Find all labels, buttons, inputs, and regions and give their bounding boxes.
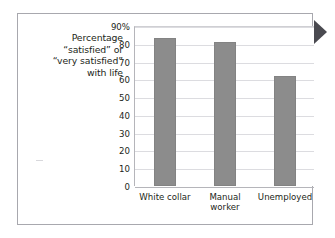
x-axis-label-manual-worker: Manualworker: [209, 192, 240, 213]
y-axis-title-line-4: with life: [26, 67, 123, 79]
y-axis-tick-label-0: 0: [125, 182, 130, 192]
y-axis-title: Percentage“satisfied” or“very satisfied”…: [26, 32, 123, 78]
plot-area: 90%80706050403020100White collarManualwo…: [134, 26, 314, 186]
y-axis-tick-label-30: 30: [119, 129, 130, 139]
scan-artifact: [36, 160, 43, 161]
x-axis-label-line-1: Unemployed: [258, 192, 312, 202]
y-axis-tick-label-90: 90%: [111, 22, 130, 32]
y-axis-tick-label-70: 70: [119, 58, 130, 68]
bar-white-collar[interactable]: [154, 38, 176, 186]
y-axis-tick-label-10: 10: [119, 164, 130, 174]
y-axis-title-line-2: “satisfied” or: [26, 44, 123, 56]
gridline-0: [135, 187, 314, 188]
y-axis-tick-label-20: 20: [119, 146, 130, 156]
y-axis-tick-label-50: 50: [119, 93, 130, 103]
x-axis-label-unemployed: Unemployed: [258, 192, 312, 202]
x-axis-label-line-1: Manual: [209, 192, 240, 202]
y-axis-title-line-3: “very satisfied”: [26, 55, 123, 67]
y-axis-tick-label-60: 60: [119, 75, 130, 85]
bar-manual-worker[interactable]: [214, 42, 236, 186]
y-axis-title-line-1: Percentage: [26, 32, 123, 44]
x-axis-label-line-1: White collar: [139, 192, 190, 202]
x-axis-label-white-collar: White collar: [139, 192, 190, 202]
gridline-90: [135, 27, 314, 28]
bar-unemployed[interactable]: [274, 76, 296, 186]
right-triangle-pointer-icon: [314, 20, 327, 44]
y-axis-tick-label-80: 80: [119, 40, 130, 50]
y-axis-tick-label-40: 40: [119, 111, 130, 121]
chart-figure-frame: Percentage“satisfied” or“very satisfied”…: [17, 13, 313, 225]
x-axis-label-line-2: worker: [209, 202, 240, 212]
